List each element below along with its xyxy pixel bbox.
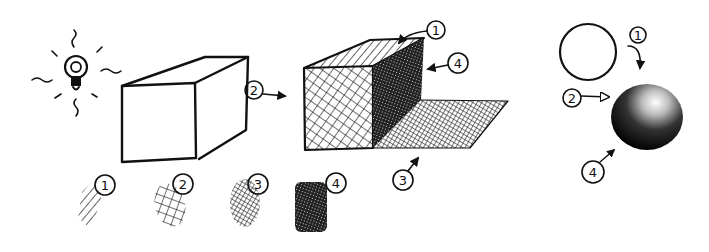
hatching-illustration: 2 1 4 3 1 2 <box>0 0 709 252</box>
svg-text:4: 4 <box>589 165 597 180</box>
svg-text:3: 3 <box>254 177 262 192</box>
callout-2-arrow: 2 <box>245 81 285 99</box>
swatch-1: 1 <box>78 175 115 228</box>
svg-text:1: 1 <box>634 28 642 43</box>
svg-text:4: 4 <box>332 176 340 191</box>
sphere-callout-2: 2 <box>563 89 608 107</box>
svg-text:2: 2 <box>179 177 187 192</box>
svg-text:1: 1 <box>432 23 440 38</box>
sphere-callout-1: 1 <box>628 27 646 68</box>
sphere-callout-4: 4 <box>582 150 614 183</box>
shaded-sphere <box>611 84 683 150</box>
swatch-3: 3 <box>230 174 268 227</box>
svg-text:4: 4 <box>454 56 462 71</box>
svg-text:3: 3 <box>399 173 407 188</box>
lightbulb-icon <box>32 30 121 116</box>
plain-cube <box>122 57 248 162</box>
swatch-2: 2 <box>150 174 193 230</box>
outline-circle <box>560 24 616 80</box>
svg-text:2: 2 <box>250 83 258 98</box>
shaded-cube <box>304 38 508 150</box>
shaded-cube-callout-3: 3 <box>393 158 418 190</box>
shaded-cube-callout-4: 4 <box>428 53 468 73</box>
swatch-4: 4 <box>295 173 346 232</box>
svg-text:2: 2 <box>568 91 576 106</box>
svg-text:1: 1 <box>101 178 109 193</box>
